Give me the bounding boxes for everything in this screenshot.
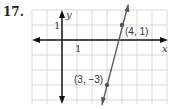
x-axis-label: x [162, 43, 168, 54]
y-axis-up-arrow-icon [59, 10, 65, 18]
point-label-3-neg3: (3, −3) [74, 74, 103, 85]
point-4-1 [120, 23, 124, 27]
x-axis [32, 37, 168, 43]
x-tick-label: 1 [75, 43, 81, 54]
point-3-neg3 [105, 83, 109, 87]
point-label-4-1: (4, 1) [125, 26, 148, 37]
coordinate-plane: y x 1 1 (4, 1) (3, −3) [0, 0, 173, 109]
y-axis-label: y [65, 9, 72, 20]
line-up-arrow-icon [125, 4, 130, 12]
grid [32, 10, 167, 104]
x-axis-left-arrow-icon [32, 37, 40, 43]
y-tick-label: 1 [54, 20, 60, 31]
plotted-line [101, 4, 129, 105]
